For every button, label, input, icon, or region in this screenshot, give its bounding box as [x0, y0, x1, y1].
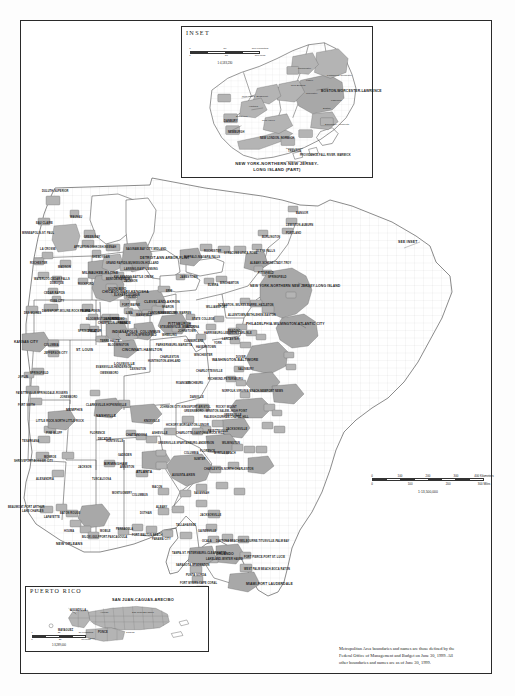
map-page: .cty{fill:#ffffff;stroke:#9a9a9a;stroke-… [0, 0, 515, 696]
main-scale-ratio: 1:13,500,000 [372, 486, 484, 494]
puerto-rico-scale-bar: 0 25 50 Kilometers 0 25 50 Miles 1:3,289… [32, 631, 86, 647]
inset-mi-tick-2: 100 Miles [255, 54, 266, 57]
credit-line-1: Metropolitan Area boundaries and names a… [339, 645, 491, 652]
map-credit-block: Metropolitan Area boundaries and names a… [339, 645, 491, 666]
main-scale-bar: 0 100 200 300 400 Kilometers 0 100 200 3… [372, 474, 484, 494]
credit-line-3: other boundaries and names are as of Jun… [339, 659, 491, 666]
puerto-rico-caption: SAN JUAN-CAGUAS-ARECIBO [112, 597, 174, 602]
pr-mi-tick-1: 25 [59, 638, 62, 641]
inset-scale-bar: 0 50 100 Kilometers 0 50 100 Miles 1:4,1… [190, 47, 260, 65]
pr-scale-ratio: 1:3,289,000 [32, 642, 86, 647]
main-mi-tick-0: 0 [371, 482, 373, 486]
pr-mi-tick-0: 0 [31, 638, 32, 641]
puerto-rico-inset-panel: PUERTO RICO [25, 586, 209, 652]
inset-scale-ratio: 1:4,183,230 [190, 58, 260, 65]
inset-caption-line-2: LONG ISLAND (PART) [182, 167, 372, 173]
inset-km-tick-2: 100 Kilometers [252, 47, 269, 50]
inset-caption: NEW YORK-NORTHERN NEW JERSEY- LONG ISLAN… [182, 161, 372, 173]
inset-mi-tick-0: 0 [189, 54, 190, 57]
northeast-inset-panel: INSET [181, 26, 373, 178]
main-mi-tick-1: 100 [408, 482, 413, 486]
see-inset-note: SEE INSET [398, 240, 418, 244]
main-mi-tick-3: 300 Miles [478, 482, 490, 486]
inset-mi-tick-1: 50 [225, 54, 228, 57]
pr-mi-tick-2: 50 Miles [82, 638, 91, 641]
pr-km-tick-2: 50 Kilometers [79, 631, 94, 634]
inset-km-tick-1: 50 [224, 47, 227, 50]
credit-line-2: Federal Office of Management and Budget … [339, 652, 491, 659]
main-mi-tick-2: 200 [446, 482, 451, 486]
pr-km-tick-1: 25 [58, 631, 61, 634]
pr-km-tick-0: 0 [31, 631, 32, 634]
inset-km-tick-0: 0 [189, 47, 190, 50]
